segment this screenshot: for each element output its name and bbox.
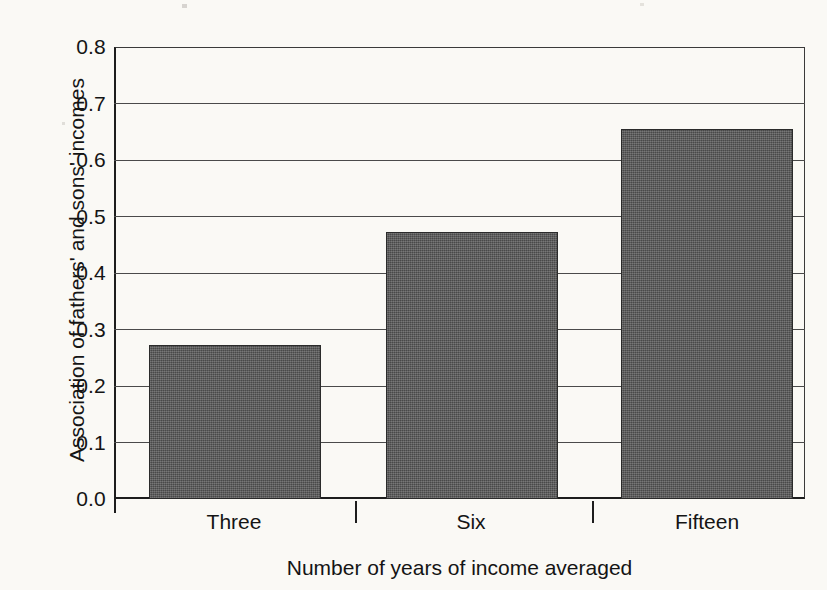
bar-three	[149, 345, 321, 499]
y-axis-spine-stub	[114, 499, 116, 513]
x-category-label: Fifteen	[607, 509, 807, 534]
scan-artifact	[640, 3, 644, 6]
x-axis-tick	[592, 501, 594, 523]
x-axis-tick	[355, 501, 357, 523]
x-category-label: Six	[371, 509, 571, 534]
bar-six	[386, 232, 558, 499]
scan-artifact	[182, 4, 187, 8]
x-category-label: Three	[134, 509, 334, 534]
y-axis-title: Association of fathers' and sons' income…	[65, 40, 89, 500]
bar-fifteen	[621, 129, 793, 499]
x-axis-title: Number of years of income averaged	[114, 556, 805, 580]
y-axis-title-holder: Association of fathers' and sons' income…	[22, 0, 62, 520]
bar-chart-figure: 0.00.10.20.30.40.50.60.70.8 ThreeSixFift…	[0, 0, 827, 590]
gridline	[114, 103, 805, 104]
